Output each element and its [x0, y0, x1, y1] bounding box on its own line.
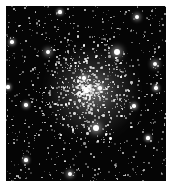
star: [91, 112, 93, 114]
star: [133, 156, 135, 158]
star: [9, 60, 10, 61]
star: [82, 175, 84, 177]
star: [119, 34, 120, 35]
star: [156, 43, 157, 44]
star: [110, 17, 111, 18]
star: [47, 130, 49, 132]
star: [101, 152, 102, 153]
star: [61, 20, 62, 21]
star: [34, 140, 35, 141]
star: [68, 116, 69, 117]
star: [88, 141, 89, 142]
star: [99, 37, 100, 38]
star: [58, 96, 60, 98]
star: [118, 150, 119, 151]
star: [99, 58, 100, 59]
star: [72, 130, 74, 132]
star: [8, 46, 9, 47]
star: [36, 23, 38, 25]
star: [16, 94, 18, 96]
star: [85, 163, 87, 165]
star: [49, 94, 51, 96]
star: [34, 137, 36, 139]
star: [36, 19, 37, 20]
star: [22, 55, 23, 56]
star: [28, 146, 30, 148]
star: [41, 177, 42, 178]
star: [39, 72, 40, 73]
star: [72, 15, 73, 16]
star: [44, 122, 45, 123]
star: [69, 103, 70, 104]
star: [115, 165, 117, 167]
star: [136, 138, 138, 140]
star: [55, 114, 57, 116]
star: [131, 145, 132, 146]
star: [138, 90, 140, 92]
star: [65, 103, 67, 105]
star: [68, 82, 69, 83]
star: [135, 172, 136, 173]
star: [109, 137, 111, 139]
star: [65, 58, 67, 60]
star: [108, 55, 111, 58]
star: [135, 15, 139, 19]
star: [34, 135, 36, 137]
star: [150, 83, 152, 85]
star: [86, 120, 88, 122]
star: [111, 27, 113, 29]
star: [76, 87, 78, 89]
star: [136, 32, 138, 34]
star: [104, 179, 105, 180]
star: [96, 70, 98, 72]
star: [60, 109, 61, 110]
star: [88, 121, 90, 123]
star: [141, 174, 142, 175]
star: [62, 154, 63, 155]
star: [101, 66, 103, 68]
star: [12, 55, 13, 56]
star: [133, 170, 134, 171]
star: [154, 53, 155, 54]
star: [65, 23, 66, 24]
star: [35, 111, 37, 113]
star: [74, 52, 75, 53]
star: [56, 118, 58, 120]
star: [113, 36, 115, 38]
star: [106, 34, 107, 35]
star: [144, 35, 146, 37]
star: [116, 59, 119, 62]
star: [157, 71, 159, 73]
star: [56, 13, 57, 14]
star: [47, 70, 48, 71]
star: [71, 138, 73, 140]
star: [144, 31, 146, 33]
star: [12, 132, 13, 133]
star: [78, 61, 80, 63]
star-cluster-image: globular star cluster: [6, 6, 166, 181]
star: [156, 99, 157, 100]
star: [99, 99, 102, 102]
star: [8, 22, 10, 24]
star: [117, 106, 118, 107]
star: [69, 99, 71, 101]
star: [162, 131, 164, 133]
star: [69, 67, 71, 69]
star: [29, 21, 30, 22]
star: [149, 75, 150, 76]
star: [57, 29, 59, 31]
star: [159, 30, 161, 32]
star: [125, 11, 127, 13]
star: [14, 164, 15, 165]
star: [31, 35, 32, 36]
star: [103, 101, 105, 103]
star: [7, 78, 8, 79]
star: [36, 32, 38, 34]
star: [131, 59, 133, 61]
star: [114, 83, 116, 85]
star: [90, 88, 92, 90]
star: [70, 65, 72, 67]
star: [70, 149, 71, 150]
star: [88, 111, 90, 113]
star: [79, 117, 81, 119]
